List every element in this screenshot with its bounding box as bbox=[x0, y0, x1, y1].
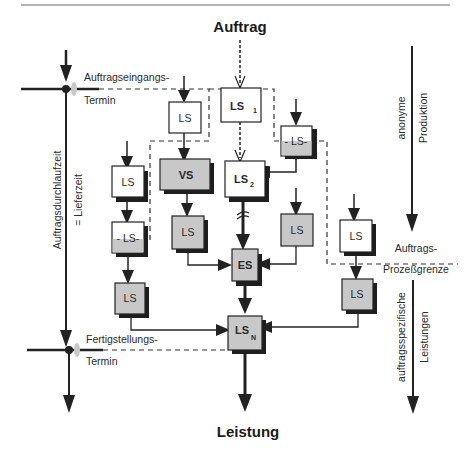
order-specific-label-1: auftragsspezifische bbox=[395, 292, 407, 382]
anonymous-production-label-2: Produktion bbox=[417, 93, 429, 143]
node-lsn: LS N bbox=[228, 316, 266, 354]
node-ls-dashed-right: - LS- bbox=[281, 126, 317, 159]
end-date-label-1: Fertigstellungs- bbox=[86, 333, 158, 345]
process-diagram: Auftrag Leistung Auftragseingangs- Termi… bbox=[0, 0, 472, 458]
node-es: ES bbox=[232, 249, 262, 286]
node-ls-left-bottom: LS bbox=[115, 283, 149, 318]
title-auftrag: Auftrag bbox=[213, 18, 266, 35]
svg-text:ES: ES bbox=[238, 259, 253, 271]
svg-text:- LS-: - LS- bbox=[285, 135, 308, 147]
svg-text:LS: LS bbox=[182, 226, 195, 238]
lead-time-label: Auftragsdurchlaufzeit bbox=[51, 151, 63, 250]
node-ls-far-right-gray: LS bbox=[342, 279, 377, 314]
svg-text:LS: LS bbox=[235, 324, 249, 336]
svg-text:N: N bbox=[251, 334, 256, 341]
node-ls1: LS 1 bbox=[221, 88, 261, 122]
boundary-label-2: Prozeßgrenze bbox=[383, 263, 449, 275]
order-specific-label-2: Leistungen bbox=[418, 311, 430, 363]
svg-text:LS: LS bbox=[234, 173, 248, 185]
svg-text:LS: LS bbox=[291, 224, 304, 236]
svg-text:1: 1 bbox=[253, 107, 257, 114]
svg-text:LS: LS bbox=[124, 292, 137, 304]
anonymous-production-label-1: anonyme bbox=[395, 96, 407, 139]
node-ls2: LS 2 bbox=[225, 161, 269, 202]
title-leistung: Leistung bbox=[217, 423, 280, 440]
node-ls-left-1: LS bbox=[112, 166, 148, 202]
node-ls-left-dashed: - LS- bbox=[112, 222, 148, 257]
start-date-label-2: Termin bbox=[84, 94, 116, 106]
end-date-label-2: Termin bbox=[86, 355, 118, 367]
svg-text:LS: LS bbox=[122, 176, 135, 188]
node-ls-far-right-white: LS bbox=[340, 220, 376, 256]
svg-text:2: 2 bbox=[250, 181, 254, 188]
node-ls-top-left: LS bbox=[169, 102, 201, 133]
node-ls-below-vs: LS bbox=[172, 216, 208, 253]
boundary-label-1: Auftrags- bbox=[395, 242, 438, 254]
start-date-label-1: Auftragseingangs- bbox=[84, 71, 170, 83]
delivery-time-label: = Lieferzeit bbox=[72, 174, 84, 226]
node-ls-right-gray: LS bbox=[281, 214, 313, 246]
svg-text:LS: LS bbox=[350, 230, 363, 242]
svg-text:LS: LS bbox=[351, 288, 364, 300]
svg-text:VS: VS bbox=[179, 169, 194, 181]
svg-text:LS: LS bbox=[179, 112, 192, 124]
node-vs: VS bbox=[160, 159, 214, 194]
svg-text:- LS-: - LS- bbox=[117, 232, 140, 244]
svg-text:LS: LS bbox=[230, 100, 244, 112]
